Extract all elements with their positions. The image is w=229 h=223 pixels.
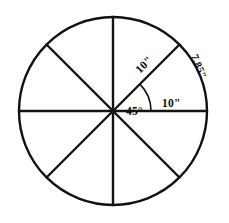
angle-label: 45°	[126, 105, 143, 117]
circle-diagram-svg: 45° 10" 10" 7.85"	[0, 0, 229, 223]
pie-sector-diagram: 45° 10" 10" 7.85"	[0, 0, 229, 223]
horizontal-radius-label: 10"	[162, 97, 181, 109]
arc-length-label: 7.85"	[189, 53, 209, 81]
